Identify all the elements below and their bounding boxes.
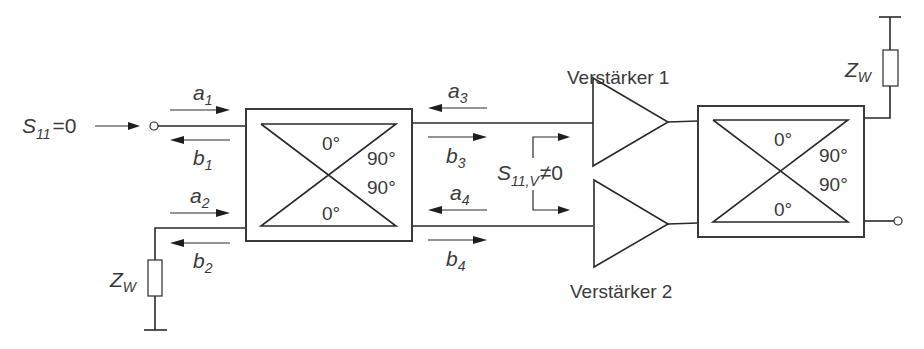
resistor-icon	[148, 260, 162, 296]
coupler-right-phase-bottom: 0°	[774, 199, 792, 220]
wave-arrow-a1	[170, 106, 230, 114]
wave-label-b3: b3	[446, 144, 466, 171]
balanced-amplifier-diagram: S11=0 a1 b1 a2 b2 ZW 0° 90° 90° 0°	[0, 0, 924, 349]
amplifier-reflection-label: S11,V≠0	[497, 161, 563, 189]
wave-arrow-a2	[170, 209, 230, 217]
output-port-terminal	[894, 217, 902, 225]
wave-arrow-b4	[428, 236, 487, 244]
wave-label-a2: a2	[190, 184, 210, 211]
amplifier-1-triangle-icon	[593, 78, 668, 166]
resistor-icon	[883, 50, 898, 86]
wave-arrow-b2	[170, 239, 230, 247]
wave-label-a4: a4	[450, 181, 470, 208]
line-amp2-to-coupler	[668, 223, 698, 224]
wave-arrow-b1	[170, 136, 230, 144]
wave-arrow-b3	[428, 133, 487, 141]
wave-label-b4: b4	[446, 247, 466, 274]
termination-resistor-left	[144, 260, 167, 330]
coupler-right-phase-right-bottom: 90°	[819, 174, 848, 195]
line-amp1-to-coupler	[668, 121, 698, 122]
input-port-terminal	[150, 122, 158, 130]
coupler-right-phase-top: 0°	[774, 129, 792, 150]
wave-arrow-a3	[428, 104, 487, 112]
input-indicator-arrow	[95, 122, 140, 130]
termination-resistor-right	[879, 17, 901, 86]
amplifier-1-label: Verstärker 1	[567, 67, 669, 88]
svg-text:S11=0: S11=0	[22, 114, 77, 142]
termination-label-left: ZW	[109, 268, 138, 295]
amplifier-2-triangle-icon	[594, 180, 668, 267]
termination-label-right: ZW	[844, 58, 873, 85]
coupler-left-phase-bottom: 0°	[322, 203, 340, 224]
wave-label-a3: a3	[448, 79, 468, 106]
wave-label-b1: b1	[193, 146, 212, 173]
amplifier-2-label: Verstärker 2	[570, 281, 672, 302]
coupler-left-phase-right-top: 90°	[367, 148, 396, 169]
coupler-right-iso-line	[864, 86, 890, 118]
input-reflection-label: S11=0	[22, 114, 77, 142]
coupler-left-phase-right-bottom: 90°	[367, 177, 396, 198]
wave-label-b2: b2	[193, 249, 213, 276]
wave-label-a1: a1	[193, 81, 212, 108]
coupler-right-phase-right-top: 90°	[819, 145, 848, 166]
coupler-left-phase-top: 0°	[322, 133, 340, 154]
wave-arrow-a4	[428, 206, 487, 214]
